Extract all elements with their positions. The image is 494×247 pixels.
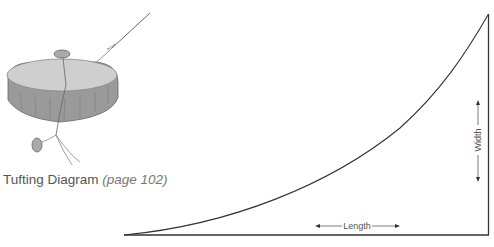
pattern-template: Length Width [0,0,494,247]
pattern-curve [124,14,489,235]
length-label: Length [343,221,371,231]
width-label: Width [473,128,483,151]
arrow-up-icon [476,100,480,105]
arrow-left-icon [315,224,320,228]
arrow-right-icon [395,224,400,228]
length-dimension: Length [315,221,400,231]
arrow-down-icon [476,177,480,182]
width-dimension: Width [473,100,483,182]
